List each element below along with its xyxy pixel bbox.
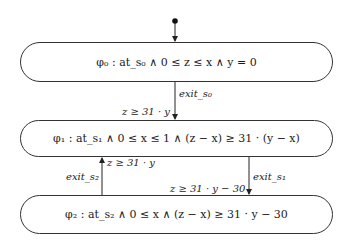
state-phi2-label: φ₂ : at_s₂ ∧ 0 ≤ x ∧ (z − x) ≥ 31 · y − … [65,208,288,221]
transition-exit-s2-action: exit_s₂ [66,171,99,182]
state-phi2: φ₂ : at_s₂ ∧ 0 ≤ x ∧ (z − x) ≥ 31 · y − … [20,195,333,234]
transition-exit-s2-guard: z ≥ 31 · y [107,157,155,168]
transition-exit-s0-action: exit_s₀ [179,88,212,99]
transition-exit-s1-guard: z ≥ 31 · y − 30 [170,183,245,194]
state-phi1-label: φ₁ : at_s₁ ∧ 0 ≤ x ≤ 1 ∧ (z − x) ≥ 31 · … [53,132,300,145]
state-phi0: φ₀ : at_s₀ ∧ 0 ≤ z ≤ x ∧ y = 0 [20,42,333,82]
state-phi1: φ₁ : at_s₁ ∧ 0 ≤ x ≤ 1 ∧ (z − x) ≥ 31 · … [20,120,333,157]
initial-state-dot [172,18,178,24]
transition-exit-s0-guard: z ≥ 31 · y [122,106,170,117]
state-phi0-label: φ₀ : at_s₀ ∧ 0 ≤ z ≤ x ∧ y = 0 [96,56,256,69]
transition-exit-s1-action: exit_s₁ [253,171,286,182]
